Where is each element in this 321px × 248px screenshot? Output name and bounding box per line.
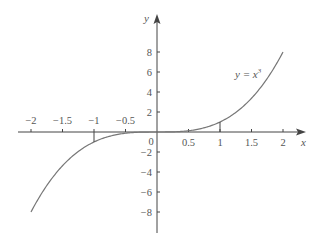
x-axis-label: x: [300, 136, 306, 148]
y-axis-label: y: [143, 12, 149, 24]
y-tick-label: 6: [147, 67, 152, 78]
y-tick-label: −4: [141, 167, 153, 178]
y-tick-label: −2: [141, 147, 152, 158]
cubic-function-chart: −2−1.5−1−0.500.511.528642−2−4−6−8 y = x3…: [0, 0, 321, 248]
x-tick-label: −1.5: [53, 115, 72, 126]
y-tick-label: −6: [141, 187, 152, 198]
y-tick-label: 8: [147, 47, 152, 58]
x-tick-label: 0: [148, 136, 153, 147]
x-tick-label: −0.5: [116, 115, 135, 126]
y-tick-label: −8: [141, 207, 152, 218]
x-tick-label: −1: [88, 115, 99, 126]
y-tick-label: 4: [147, 87, 153, 98]
x-tick-label: 2: [280, 137, 285, 148]
x-tick-label: −2: [25, 115, 36, 126]
y-tick-label: 2: [147, 107, 152, 118]
x-tick-label: 1: [217, 137, 222, 148]
x-tick-label: 1.5: [245, 137, 258, 148]
x-tick-label: 0.5: [182, 137, 195, 148]
function-annotation: y = x3: [234, 67, 262, 80]
